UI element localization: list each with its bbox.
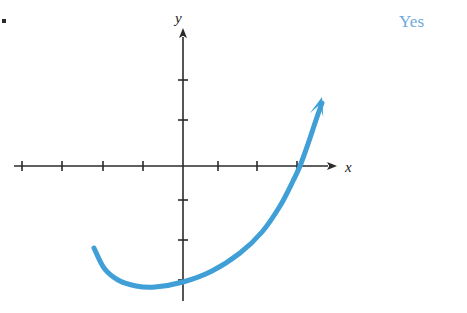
x-axis-label: x	[344, 159, 352, 175]
figure-container: Yes x y	[0, 0, 467, 313]
y-axis-label: y	[173, 10, 182, 26]
coordinate-plane-graphic: x y	[0, 0, 467, 313]
curve-path	[94, 103, 322, 287]
plotted-curve	[94, 97, 323, 287]
y-axis: y	[173, 10, 188, 301]
